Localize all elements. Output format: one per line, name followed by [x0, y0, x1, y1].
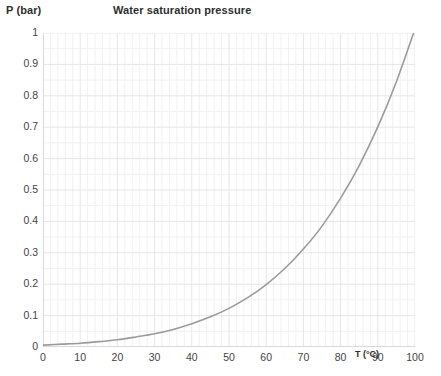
y-tick-label: 0.6 — [4, 152, 38, 164]
x-tick-label: 0 — [23, 351, 63, 363]
plot-area — [43, 33, 415, 347]
y-tick-label: 0.5 — [4, 183, 38, 195]
y-tick-label: 0.9 — [4, 57, 38, 69]
x-tick-label: 20 — [97, 351, 137, 363]
plot-svg — [43, 33, 415, 347]
page-artifact — [6, 369, 8, 376]
y-axis-title: P (bar) — [6, 4, 41, 16]
x-tick-label: 30 — [135, 351, 175, 363]
y-tick-label: 1 — [4, 26, 38, 38]
x-tick-label: 40 — [172, 351, 212, 363]
x-tick-label: 60 — [246, 351, 286, 363]
x-tick-label: 100 — [395, 351, 435, 363]
x-tick-label: 10 — [60, 351, 100, 363]
y-tick-label: 0.8 — [4, 89, 38, 101]
y-tick-label: 0.3 — [4, 246, 38, 258]
x-axis-title: T (°C) — [355, 349, 379, 359]
y-tick-label: 0.2 — [4, 277, 38, 289]
chart-title: Water saturation pressure — [113, 4, 251, 16]
x-tick-label: 70 — [283, 351, 323, 363]
y-tick-label: 0.1 — [4, 309, 38, 321]
x-tick-label: 50 — [209, 351, 249, 363]
chart-container: P (bar) Water saturation pressure 00.10.… — [0, 0, 441, 376]
y-tick-label: 0.4 — [4, 214, 38, 226]
y-tick-label: 0.7 — [4, 120, 38, 132]
